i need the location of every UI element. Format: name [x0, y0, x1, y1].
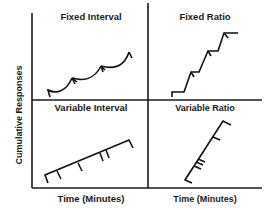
- variable-interval-curve: [45, 140, 133, 183]
- x-axis-label-right: Time (Minutes): [173, 194, 236, 204]
- fi-scallop-2: [72, 66, 101, 79]
- fi-scallop-3: [101, 52, 129, 67]
- fixed-ratio-curve: [172, 33, 238, 97]
- vr-reinforcement-mark-2: [196, 162, 203, 165]
- vr-reinforcement-mark-1: [194, 166, 201, 169]
- vi-line: [45, 140, 133, 183]
- vi-reinforcement-mark-1: [57, 171, 61, 179]
- vi-reinforcement-mark-4: [106, 150, 109, 158]
- vi-reinforcement-mark-2: [78, 163, 82, 171]
- vr-reinforcement-mark-4: [213, 137, 220, 140]
- fi-scallop-1: [48, 78, 72, 92]
- vr-line: [185, 121, 231, 183]
- panel-title-fixed-ratio: Fixed Ratio: [179, 11, 230, 22]
- vr-reinforcement-mark-3: [198, 159, 205, 162]
- panel-title-fixed-interval: Fixed Interval: [60, 11, 121, 22]
- vi-reinforcement-mark-3: [100, 153, 103, 161]
- fi-reinforcement-mark-3: [129, 52, 132, 58]
- panel-title-variable-interval: Variable Interval: [55, 102, 128, 113]
- y-axis-label: Cumulative Responses: [14, 65, 24, 164]
- x-axis-label-left: Time (Minutes): [58, 193, 125, 204]
- panel-title-variable-ratio: Variable Ratio: [175, 103, 235, 113]
- reinforcement-schedules-diagram: Cumulative Responses Fixed Interval Fixe…: [0, 0, 279, 210]
- fr-steps: [172, 33, 238, 97]
- variable-ratio-curve: [185, 121, 231, 183]
- fixed-interval-curve: [48, 52, 132, 97]
